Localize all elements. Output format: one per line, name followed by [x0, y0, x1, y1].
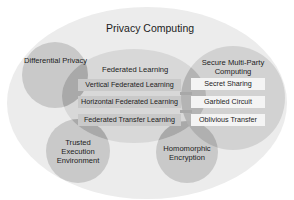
fl-item-transfer: Federated Transfer Learning	[78, 114, 181, 126]
diagram-title: Privacy Computing	[106, 24, 194, 33]
he-label-line-2: Encryption	[160, 153, 214, 162]
smpc-label-line-1: Secure Multi-Party	[196, 58, 270, 67]
fl-item-vertical: Vertical Federated Learning	[78, 79, 181, 91]
he-label-line-1: Homomorphic	[160, 144, 214, 153]
tee-label-line-1: Trusted	[54, 138, 102, 147]
smpc-label-line-2: Computing	[196, 67, 270, 76]
homomorphic-encryption-label: Homomorphic Encryption	[160, 144, 214, 162]
mpc-item-garbled-circuit: Garbled Circuit	[191, 96, 265, 108]
tee-label: Trusted Execution Environment	[54, 138, 102, 165]
fl-item-horizontal: Horizontal Federated Learning	[78, 96, 181, 108]
mpc-item-oblivious-transfer: Oblivious Transfer	[191, 114, 265, 126]
tee-label-line-3: Environment	[54, 156, 102, 165]
secure-mpc-label: Secure Multi-Party Computing	[196, 58, 270, 76]
tee-label-line-2: Execution	[54, 147, 102, 156]
mpc-item-secret-sharing: Secret Sharing	[191, 78, 265, 90]
federated-learning-label: Federated Learning	[102, 65, 168, 74]
differential-privacy-label: Differential Privacy	[24, 56, 87, 65]
